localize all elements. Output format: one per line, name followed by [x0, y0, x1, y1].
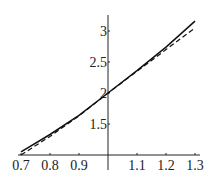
y-ticks: 1.522.53: [90, 24, 111, 132]
x-tick-label: 1.1: [128, 158, 146, 173]
x-tick-label: 1.2: [157, 158, 175, 173]
y-tick-label: 2.5: [90, 55, 108, 70]
x-tick-label: 0.9: [70, 158, 88, 173]
x-tick-label: 0.8: [41, 158, 59, 173]
line-chart: 0.70.80.91.11.21.3 1.522.53: [0, 0, 213, 179]
y-tick-label: 3: [100, 24, 107, 39]
x-tick-label: 0.7: [12, 158, 30, 173]
y-tick-label: 1.5: [90, 117, 108, 132]
x-tick-label: 1.3: [186, 158, 204, 173]
